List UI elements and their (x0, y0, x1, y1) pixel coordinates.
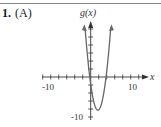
x-tick-label-neg10: -10 (42, 82, 54, 92)
g-curve (85, 28, 111, 110)
y-axis-label: g(x) (80, 7, 97, 19)
x-tick-label-10: 10 (128, 82, 138, 92)
y-axis-arrow-icon (88, 21, 93, 28)
curve-right-arrow-icon (109, 24, 114, 31)
x-axis-arrow-icon (142, 75, 149, 80)
graph: g(x) x -10 10 -10 (0, 0, 161, 127)
curve-left-arrow-icon (82, 24, 87, 31)
y-tick-label-neg10: -10 (71, 112, 83, 122)
x-axis-label: x (149, 71, 155, 82)
